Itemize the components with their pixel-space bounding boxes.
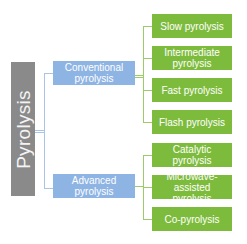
connector-conventional-vertical <box>143 26 144 123</box>
leaf-intermediate-pyrolysis: Intermediate pyrolysis <box>152 46 232 70</box>
category-label: Advanced pyrolysis <box>55 175 133 197</box>
leaf-label: Microwave-assisted pyrolysis <box>154 171 230 204</box>
connector-flash <box>143 122 152 123</box>
leaf-microwave-assisted-pyrolysis: Microwave-assisted pyrolysis <box>152 175 232 199</box>
connector-to-advanced <box>44 188 53 189</box>
connector-advanced-stub <box>135 186 143 187</box>
leaf-slow-pyrolysis: Slow pyrolysis <box>152 14 232 38</box>
connector-slow <box>143 26 152 27</box>
root-label: Pyrolysis <box>18 90 29 169</box>
leaf-label: Flash pyrolysis <box>159 117 225 128</box>
leaf-label: Co-pyrolysis <box>164 214 219 225</box>
connector-to-conventional <box>44 73 53 74</box>
leaf-catalytic-pyrolysis: Catalytic pyrolysis <box>152 143 232 167</box>
connector-catalytic <box>143 155 152 156</box>
category-conventional-pyrolysis: Conventional pyrolysis <box>53 61 135 85</box>
leaf-label: Fast pyrolysis <box>161 85 222 96</box>
connector-root-vertical <box>44 73 45 189</box>
connector-root-stub <box>35 130 44 131</box>
connector-root-stub-2 <box>35 132 44 133</box>
category-label: Conventional pyrolysis <box>55 62 133 84</box>
connector-conventional-stub-2 <box>135 77 143 78</box>
leaf-co-pyrolysis: Co-pyrolysis <box>152 207 232 231</box>
leaf-flash-pyrolysis: Flash pyrolysis <box>152 110 232 134</box>
leaf-label: Slow pyrolysis <box>160 21 223 32</box>
category-advanced-pyrolysis: Advanced pyrolysis <box>53 174 135 198</box>
connector-co-pyrolysis <box>143 219 152 220</box>
connector-fast <box>143 90 152 91</box>
leaf-label: Catalytic pyrolysis <box>154 144 230 166</box>
leaf-fast-pyrolysis: Fast pyrolysis <box>152 78 232 102</box>
leaf-label: Intermediate pyrolysis <box>163 47 221 69</box>
connector-microwave <box>143 187 152 188</box>
root-node-pyrolysis: Pyrolysis <box>11 62 35 196</box>
connector-conventional-stub <box>135 75 143 76</box>
connector-intermediate <box>143 58 152 59</box>
